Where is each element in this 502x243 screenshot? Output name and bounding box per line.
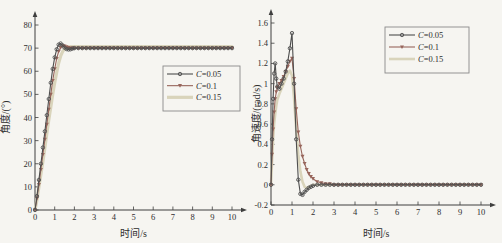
x-tick-label: 2 [311, 207, 315, 217]
x-tick-label: 1 [290, 207, 294, 217]
y-axis-title: 角度/(°) [0, 101, 12, 134]
y-tick-label: 60 [24, 66, 33, 76]
y-tick-label: 40 [24, 113, 33, 123]
triangle-down-marker [274, 90, 278, 94]
dual-chart-figure: 01234567891001020304050607080时间/s角度/(°)C… [0, 0, 502, 243]
x-tick-label: 5 [374, 207, 378, 217]
axes [33, 11, 247, 212]
x-tick-label: 1 [53, 212, 57, 222]
y-axis-arrow [33, 11, 38, 17]
x-axis-title: 时间/s [120, 227, 147, 239]
legend-label: C=0.1 [418, 42, 439, 52]
triangle-down-marker [301, 155, 305, 159]
y-tick-label: 30 [24, 136, 33, 146]
x-tick-label: 9 [210, 212, 214, 222]
triangle-down-marker [305, 168, 309, 172]
legend-label: C=0.15 [418, 54, 443, 64]
x-tick-label: 7 [171, 212, 175, 222]
x-tick-label: 4 [112, 212, 117, 222]
x-tick-label: 0 [269, 207, 273, 217]
x-tick-label: 5 [131, 212, 135, 222]
x-tick-label: 8 [190, 212, 194, 222]
y-tick-label: 80 [24, 20, 33, 30]
y-tick-label: 1 [264, 79, 268, 89]
triangle-down-marker [303, 162, 307, 166]
legend-label: C=0.1 [196, 81, 217, 91]
legend-label: C=0.15 [196, 92, 221, 102]
y-tick-label: 0 [28, 205, 32, 215]
y-tick-label: 20 [24, 159, 33, 169]
legend: C=0.05C=0.1C=0.15 [163, 66, 240, 111]
series-c-0-15 [271, 71, 481, 188]
y-tick-label: 0.2 [257, 160, 268, 170]
x-tick-label: 3 [332, 207, 336, 217]
x-tick-label: 4 [353, 207, 358, 217]
y-tick-label: 1.4 [257, 38, 268, 48]
y-tick-label: 1.2 [257, 58, 268, 68]
x-tick-label: 0 [33, 212, 37, 222]
x-tick-label: 8 [437, 207, 441, 217]
y-tick-label: -0.2 [255, 200, 268, 210]
y-tick-label: 0 [264, 180, 268, 190]
x-tick-label: 10 [228, 212, 237, 222]
angle-vs-time-chart: 01234567891001020304050607080时间/s角度/(°)C… [0, 0, 251, 243]
legend-label: C=0.05 [418, 30, 443, 40]
y-axis-arrow [269, 9, 274, 15]
angular-velocity-vs-time-chart: 012345678910-0.200.20.40.60.811.21.41.6时… [251, 0, 502, 243]
x-tick-label: 6 [395, 207, 399, 217]
legend: C=0.05C=0.1C=0.15 [385, 27, 469, 73]
x-tick-label: 2 [72, 212, 76, 222]
y-tick-label: 10 [24, 182, 33, 192]
legend-label: C=0.05 [196, 69, 221, 79]
y-axis-title: 角速度/(rad/s) [251, 85, 263, 144]
y-tick-label: 70 [24, 43, 33, 53]
series-line [271, 71, 481, 188]
x-tick-label: 3 [92, 212, 96, 222]
x-axis-arrow [241, 208, 247, 213]
y-tick-label: 50 [24, 89, 33, 99]
x-tick-label: 10 [477, 207, 486, 217]
x-tick-label: 7 [416, 207, 420, 217]
x-axis-title: 时间/s [363, 227, 390, 239]
series-line [271, 58, 481, 184]
y-tick-label: 1.6 [257, 18, 268, 28]
x-tick-label: 6 [151, 212, 155, 222]
x-tick-label: 9 [458, 207, 462, 217]
x-axis-arrow [490, 203, 496, 208]
